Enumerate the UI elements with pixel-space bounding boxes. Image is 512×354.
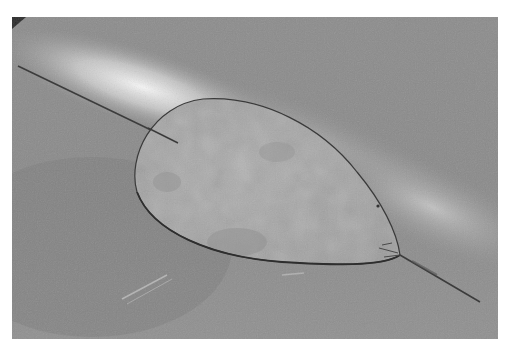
photo-canvas	[12, 17, 498, 339]
plate-mark	[376, 204, 379, 207]
photograph: Grayscale photograph of a teardrop-shape…	[12, 17, 498, 339]
